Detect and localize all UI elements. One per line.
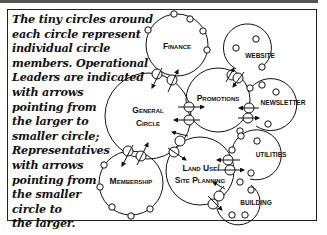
arrows <box>122 68 259 210</box>
land-use-label-line1: Land Use/ <box>182 163 220 173</box>
general-label-line1: General <box>132 105 164 115</box>
sociocracy-diagram: Finance General Circle Promotions Land U… <box>0 0 327 235</box>
finance-label: Finance <box>163 41 191 51</box>
membership-label: Membership <box>110 176 153 186</box>
website-label: Website <box>245 52 275 59</box>
website-circle <box>223 24 271 69</box>
general-label-line2: Circle <box>136 118 160 128</box>
promotions-label: Promotions <box>197 93 240 103</box>
building-label: Building <box>240 199 271 206</box>
land-use-label-line2: Site Planning <box>175 175 226 185</box>
newsletter-label: Newsletter <box>261 99 306 106</box>
utilities-label: Utilities <box>256 151 287 158</box>
